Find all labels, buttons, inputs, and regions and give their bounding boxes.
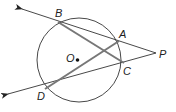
label-c: C <box>123 65 131 77</box>
circle-secant-diagram: B A P C D O <box>0 0 176 112</box>
secant-ray-pd <box>8 53 156 94</box>
label-p: P <box>159 48 167 60</box>
center-point-o <box>76 58 80 62</box>
label-b: B <box>55 7 62 19</box>
label-o: O <box>66 52 75 64</box>
label-a: A <box>118 28 126 40</box>
chord-da <box>45 41 119 89</box>
label-d: D <box>37 90 45 102</box>
secant-ray-pb <box>22 9 156 53</box>
